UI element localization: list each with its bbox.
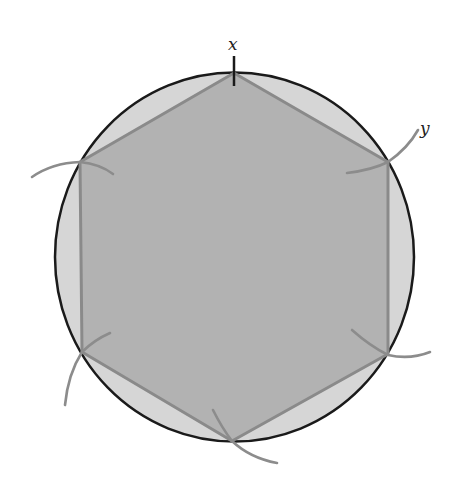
- hexagon-construction-diagram: x y: [0, 0, 453, 484]
- label-x: x: [228, 34, 238, 54]
- label-y: y: [419, 118, 430, 138]
